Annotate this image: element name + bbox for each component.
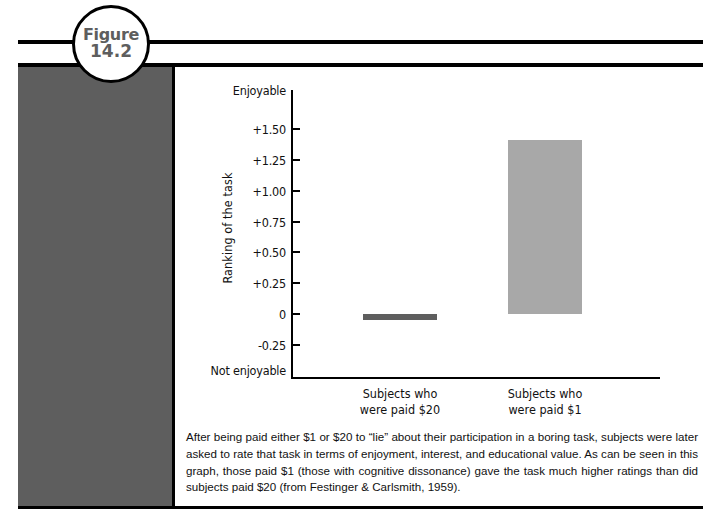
x-axis-category-label-line: Subjects who	[320, 386, 480, 402]
figure-number-badge: Figure 14.2	[72, 5, 150, 83]
figure-badge-number: 14.2	[90, 43, 132, 61]
y-axis-tick-label: +0.50	[253, 245, 286, 260]
y-axis-tick	[293, 221, 300, 223]
bottom-rule	[18, 506, 703, 509]
x-axis-category-label: Subjects whowere paid $20	[320, 386, 480, 417]
y-axis-tick	[293, 128, 300, 130]
x-axis-category-label-line: were paid $20	[320, 402, 480, 418]
y-axis-tick-label: +0.75	[253, 214, 286, 229]
bar	[508, 140, 582, 314]
x-axis-category-label: Subjects whowere paid $1	[465, 386, 625, 417]
y-axis-tick-label: -0.25	[258, 338, 286, 353]
y-axis-endcap-top: Enjoyable	[233, 83, 286, 98]
x-axis-line	[291, 377, 660, 379]
y-axis-tick-label: +1.25	[253, 152, 286, 167]
y-axis-tick-label: 0	[279, 307, 286, 322]
x-axis-category-label-line: were paid $1	[465, 402, 625, 418]
left-decorative-panel	[18, 67, 175, 507]
y-axis-tick-label: +0.25	[253, 276, 286, 291]
figure-caption: After being paid either $1 or $20 to “li…	[186, 429, 698, 496]
y-axis-tick-label: +1.50	[253, 122, 286, 137]
y-axis-line	[291, 90, 293, 378]
y-axis-title: Ranking of the task	[220, 172, 235, 283]
y-axis-tick	[293, 159, 300, 161]
figure-container: Figure 14.2 Ranking of the task +1.50+1.…	[0, 0, 720, 528]
y-axis-tick	[293, 282, 300, 284]
y-axis-endcap-bottom: Not enjoyable	[211, 363, 286, 378]
y-axis-tick	[293, 190, 300, 192]
y-axis-tick-label: +1.00	[253, 183, 286, 198]
y-axis-tick	[293, 344, 300, 346]
y-axis-tick	[293, 251, 300, 253]
x-axis-category-label-line: Subjects who	[465, 386, 625, 402]
bar	[363, 314, 437, 320]
bar-chart: Ranking of the task +1.50+1.25+1.00+0.75…	[180, 78, 704, 418]
y-axis-tick	[293, 313, 300, 315]
